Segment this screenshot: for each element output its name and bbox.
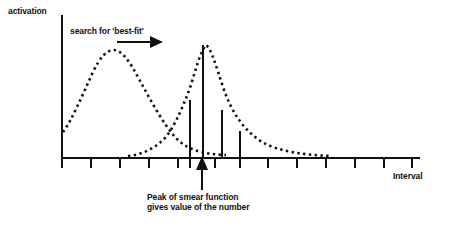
search-annotation-label: search for 'best-fit' xyxy=(70,26,144,36)
best-fit-smear-curve xyxy=(128,45,331,156)
peak-caption-line-1: Peak of smear function xyxy=(147,192,249,202)
peak-annotation-caption: Peak of smear function gives value of th… xyxy=(147,192,249,213)
input-smear-curve xyxy=(63,50,226,155)
x-axis-ticks xyxy=(62,158,412,168)
y-axis-label: activation xyxy=(8,6,47,16)
figure-container: activation Interval search for 'best-fit… xyxy=(0,0,454,233)
right-arrow-icon xyxy=(117,36,163,48)
up-arrow-icon xyxy=(196,156,208,190)
x-axis-label: Interval xyxy=(393,171,422,181)
peak-caption-line-2: gives value of the number xyxy=(147,202,249,212)
